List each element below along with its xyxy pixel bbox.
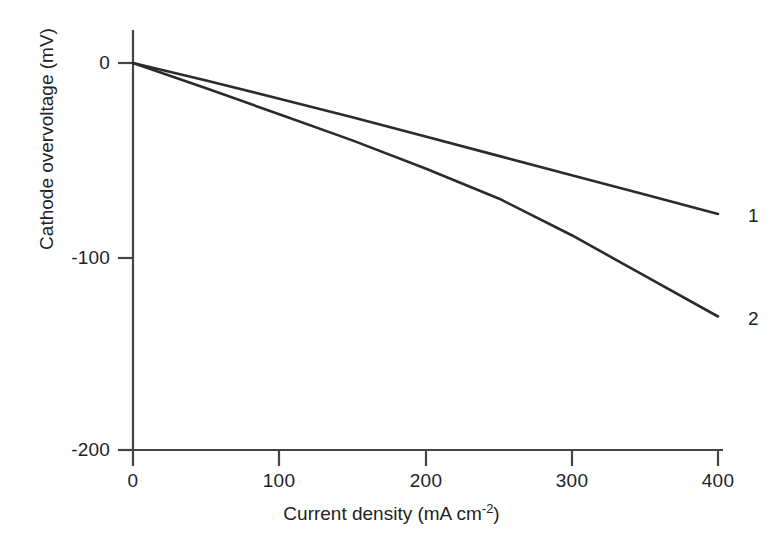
x-axis-title-exponent: -2 bbox=[482, 501, 493, 516]
x-axis-title: Current density (mA cm-2) bbox=[0, 503, 783, 525]
x-tick-label-400: 400 bbox=[688, 470, 748, 492]
x-axis-title-text: Current density (mA cm bbox=[283, 503, 482, 524]
x-axis-title-close: ) bbox=[493, 503, 499, 524]
y-axis-title: Cathode overvoltage (mV) bbox=[36, 28, 57, 250]
x-tick-label-300: 300 bbox=[542, 470, 602, 492]
series-label-1: 1 bbox=[748, 205, 759, 227]
y-axis-title-wrapper: Cathode overvoltage (mV) bbox=[36, 0, 58, 304]
x-tick-label-0: 0 bbox=[103, 470, 163, 492]
y-tick-label-minus-200: -200 bbox=[38, 439, 110, 461]
series-label-2: 2 bbox=[748, 308, 759, 330]
x-tick-label-200: 200 bbox=[396, 470, 456, 492]
chart-figure: 0 -100 -200 0 100 200 300 400 1 2 Curren… bbox=[0, 0, 783, 549]
series-line-1 bbox=[133, 63, 718, 214]
x-tick-label-100: 100 bbox=[249, 470, 309, 492]
plot-area bbox=[0, 0, 783, 549]
